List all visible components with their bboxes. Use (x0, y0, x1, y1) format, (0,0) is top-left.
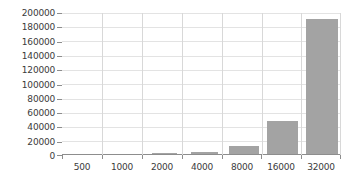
x-axis-tick (301, 155, 302, 159)
y-axis-label: 140000 (1, 52, 55, 61)
gridline-vertical (262, 13, 263, 155)
gridline-horizontal (62, 141, 341, 142)
y-axis-label: 160000 (1, 38, 55, 47)
bar-4000[interactable] (191, 152, 218, 154)
y-axis-label: 80000 (1, 95, 55, 104)
gridline-horizontal (62, 113, 341, 114)
y-axis-labels: 200000 180000 160000 140000 120000 10000… (0, 0, 55, 190)
gridline-horizontal (62, 41, 341, 42)
x-axis-label-1000: 1000 (102, 162, 142, 172)
x-axis-line (62, 154, 341, 155)
x-axis-tick (102, 155, 103, 159)
y-axis-label: 20000 (1, 138, 55, 147)
y-axis-label: 60000 (1, 109, 55, 118)
x-axis-labels: 500 1000 2000 4000 8000 16000 32000 (62, 162, 341, 178)
x-axis-tick (142, 155, 143, 159)
gridline-horizontal (62, 56, 341, 57)
bar-2000[interactable] (152, 153, 177, 154)
x-axis-label-8000: 8000 (222, 162, 262, 172)
bar-16000[interactable] (267, 121, 298, 154)
gridline-horizontal (62, 27, 341, 28)
gridline-vertical (222, 13, 223, 155)
bar-8000[interactable] (229, 146, 259, 154)
gridline-horizontal (62, 84, 341, 85)
gridline-horizontal (62, 70, 341, 71)
y-axis-label: 180000 (1, 23, 55, 32)
x-axis-label-500: 500 (62, 162, 102, 172)
x-axis-tick (182, 155, 183, 159)
bar-chart: 200000 180000 160000 140000 120000 10000… (0, 0, 352, 190)
x-axis-label-32000: 32000 (301, 162, 341, 172)
gridline-vertical (182, 13, 183, 155)
gridline-vertical (301, 13, 302, 155)
gridline-horizontal (62, 13, 341, 14)
y-axis-label: 200000 (1, 9, 55, 18)
x-axis-tick (340, 155, 341, 159)
gridline-vertical (142, 13, 143, 155)
y-axis-label: 100000 (1, 81, 55, 90)
x-axis-label-16000: 16000 (261, 162, 301, 172)
gridline-horizontal (62, 127, 341, 128)
gridline-vertical (340, 13, 341, 155)
gridline-vertical (102, 13, 103, 155)
x-axis-tick (222, 155, 223, 159)
x-axis-tick (62, 155, 63, 159)
y-axis-label: 40000 (1, 123, 55, 132)
gridline-horizontal (62, 99, 341, 100)
y-axis-label: 0 (1, 152, 55, 161)
bar-32000[interactable] (306, 19, 338, 154)
y-axis-label: 120000 (1, 66, 55, 75)
x-axis-label-2000: 2000 (142, 162, 182, 172)
x-axis-label-4000: 4000 (182, 162, 222, 172)
x-axis-tick (261, 155, 262, 159)
plot-area (62, 13, 341, 155)
